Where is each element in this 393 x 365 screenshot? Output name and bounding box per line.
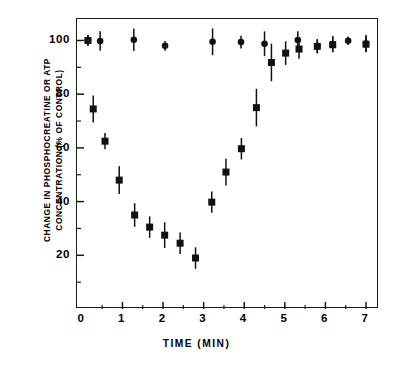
x-tick-label: 6 <box>311 312 337 324</box>
data-point-square <box>116 177 123 184</box>
data-point-square <box>314 43 321 50</box>
data-point-circle <box>295 37 302 44</box>
data-point-circle <box>131 36 138 43</box>
figure-chart-phosphocreatine-atp: CHANGE IN PHOSPHOCREATINE OR ATP CONCENT… <box>0 0 393 365</box>
x-axis-title: TIME (MIN) <box>0 338 393 349</box>
x-tick-label: 5 <box>271 312 297 324</box>
data-point-circle <box>345 37 352 44</box>
data-point-square <box>161 232 168 239</box>
data-canvas <box>77 19 379 309</box>
data-point-square <box>102 138 109 145</box>
data-point-square <box>329 41 336 48</box>
data-point-circle <box>97 38 104 45</box>
y-tick-label: 80 <box>40 87 70 99</box>
data-point-square <box>131 212 138 219</box>
y-tick-label: 100 <box>40 33 70 45</box>
data-point-square <box>253 104 260 111</box>
x-tick-label: 3 <box>190 312 216 324</box>
x-tick-label: 4 <box>230 312 256 324</box>
x-axis-tick-labels: 01234567 <box>0 312 393 330</box>
y-tick-label: 60 <box>40 141 70 153</box>
data-point-square <box>146 224 153 231</box>
data-point-square <box>90 105 97 112</box>
x-tick-label: 1 <box>108 312 134 324</box>
y-axis-tick-labels: 20406080100 <box>36 0 70 365</box>
data-point-square <box>222 169 229 176</box>
series-atp <box>85 28 370 56</box>
data-point-square <box>238 145 245 152</box>
data-point-square <box>296 46 303 53</box>
data-point-square <box>282 50 289 57</box>
plot-area <box>76 18 378 308</box>
data-point-square <box>192 254 199 261</box>
data-point-circle <box>238 39 245 46</box>
x-tick-label: 0 <box>68 312 94 324</box>
data-point-square <box>177 240 184 247</box>
data-point-circle <box>261 40 268 47</box>
data-point-square <box>268 59 275 66</box>
y-tick-label: 20 <box>40 248 70 260</box>
x-tick-label: 7 <box>352 312 378 324</box>
data-point-circle <box>209 39 216 46</box>
data-point-square <box>208 199 215 206</box>
data-point-square <box>363 41 370 48</box>
series-phosphocreatine <box>84 35 369 269</box>
data-point-square <box>84 37 91 44</box>
x-tick-label: 2 <box>149 312 175 324</box>
data-point-circle <box>162 43 169 50</box>
y-tick-label: 40 <box>40 195 70 207</box>
